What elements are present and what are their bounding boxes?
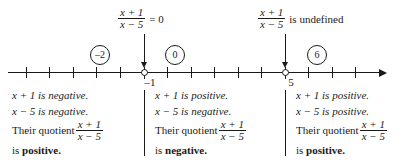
tick-mark <box>26 67 27 78</box>
interval-line-conclusion: is positive. <box>12 143 104 159</box>
interval-panel-middle: x + 1 is positive. x − 5 is negative. Th… <box>155 88 247 159</box>
tick-mark <box>73 67 74 78</box>
circled-test-value-0: 0 <box>165 45 185 65</box>
fraction-x-plus-1-over-x-minus-5: x + 1 x − 5 <box>258 7 285 31</box>
number-line: –1 5 <box>0 63 403 85</box>
interval-sign-result: negative. <box>165 144 207 156</box>
callout-expression-undefined: x + 1 x − 5 is undefined <box>257 7 343 31</box>
arrow-shaft <box>285 34 286 64</box>
fraction-numerator: x + 1 <box>258 7 285 19</box>
callout-expression-equals-zero: x + 1 x − 5 = 0 <box>117 7 164 31</box>
tick-mark <box>355 67 356 78</box>
fraction-numerator: x + 1 <box>76 119 103 131</box>
number-line-arrowhead-icon <box>379 69 387 77</box>
interval-line-quotient: Their quotientx + 1x − 5 <box>12 119 104 143</box>
interval-line-numerator-sign: x + 1 is negative. <box>12 88 104 104</box>
fraction-denominator: x − 5 <box>118 18 145 31</box>
interval-sign-result: positive. <box>22 144 61 156</box>
fraction-numerator: x + 1 <box>360 119 387 131</box>
interval-line-conclusion: is positive. <box>296 143 388 159</box>
key-point-label-5: 5 <box>279 77 303 88</box>
tick-mark <box>120 67 121 78</box>
interval-analysis-panels: x + 1 is negative. x − 5 is negative. Th… <box>0 88 403 160</box>
number-line-axis <box>8 72 380 73</box>
interval-line-denominator-sign: x − 5 is negative. <box>12 104 104 120</box>
interval-line-quotient: Their quotientx + 1x − 5 <box>296 119 388 143</box>
fraction-x-plus-1-over-x-minus-5: x + 1x − 5 <box>360 119 387 143</box>
interval-panel-right: x + 1 is positive. x − 5 is positive. Th… <box>296 88 388 159</box>
fraction-numerator: x + 1 <box>118 7 145 19</box>
marker-circle <box>282 69 289 76</box>
panel-divider <box>285 90 286 156</box>
interval-line-numerator-sign: x + 1 is positive. <box>155 88 247 104</box>
tick-mark <box>49 67 50 78</box>
circled-test-value-minus-2: –2 <box>90 45 110 65</box>
interval-line-quotient: Their quotientx + 1x − 5 <box>155 119 247 143</box>
tick-mark <box>261 67 262 78</box>
fraction-x-plus-1-over-x-minus-5: x + 1x − 5 <box>76 119 103 143</box>
marker-circle <box>141 69 148 76</box>
interval-panel-left: x + 1 is negative. x − 5 is negative. Th… <box>12 88 104 159</box>
panel-divider <box>144 90 145 156</box>
arrow-shaft <box>144 34 145 64</box>
fraction-numerator: x + 1 <box>219 119 246 131</box>
figure-canvas: x + 1 x − 5 = 0 x + 1 x − 5 is undefined… <box>0 0 403 160</box>
interval-line-numerator-sign: x + 1 is positive. <box>296 88 388 104</box>
fraction-x-plus-1-over-x-minus-5: x + 1x − 5 <box>219 119 246 143</box>
tick-mark <box>308 67 309 78</box>
callout-tail-text: is undefined <box>289 13 343 25</box>
interval-line-denominator-sign: x − 5 is negative. <box>155 104 247 120</box>
interval-sign-result: positive. <box>306 144 345 156</box>
fraction-denominator: x − 5 <box>76 130 103 143</box>
circled-test-value-6: 6 <box>307 45 327 65</box>
tick-mark <box>332 67 333 78</box>
interval-line-denominator-sign: x − 5 is positive. <box>296 104 388 120</box>
fraction-denominator: x − 5 <box>258 18 285 31</box>
tick-mark <box>167 67 168 78</box>
fraction-x-plus-1-over-x-minus-5: x + 1 x − 5 <box>118 7 145 31</box>
tick-mark <box>96 67 97 78</box>
fraction-denominator: x − 5 <box>219 130 246 143</box>
callout-tail-text: = 0 <box>149 13 163 25</box>
tick-mark <box>191 67 192 78</box>
tick-mark <box>238 67 239 78</box>
fraction-denominator: x − 5 <box>360 130 387 143</box>
interval-line-conclusion: is negative. <box>155 143 247 159</box>
tick-mark <box>214 67 215 78</box>
key-point-label-minus-1: –1 <box>138 77 162 88</box>
